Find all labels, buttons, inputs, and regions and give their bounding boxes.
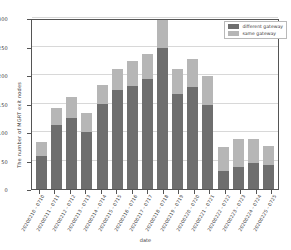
- bar-segment-same-gateway[interactable]: [218, 147, 229, 171]
- y-tick-label: 300: [0, 16, 8, 22]
- legend-swatch: [228, 24, 239, 29]
- legend-label: same gateway: [242, 31, 276, 36]
- bar-segment-different-gateway[interactable]: [202, 105, 213, 189]
- bar-segment-different-gateway[interactable]: [142, 79, 153, 189]
- bar-segment-different-gateway[interactable]: [187, 87, 198, 189]
- y-axis-title: The number of MGRT exit nodes: [16, 65, 22, 185]
- bar-segment-same-gateway[interactable]: [157, 20, 168, 48]
- bar-segment-same-gateway[interactable]: [36, 142, 47, 156]
- bar-group[interactable]: [36, 20, 47, 189]
- bar-segment-different-gateway[interactable]: [81, 132, 92, 189]
- y-tick-label: 250: [0, 45, 8, 51]
- x-axis-title: date: [0, 237, 291, 243]
- y-tick-label: 200: [0, 73, 8, 79]
- x-tick-mark: [101, 190, 102, 194]
- bar-segment-different-gateway[interactable]: [218, 171, 229, 189]
- y-tick-label: 150: [0, 102, 8, 108]
- bar-segment-same-gateway[interactable]: [51, 108, 62, 125]
- bar-group[interactable]: [233, 20, 244, 189]
- bar-segment-same-gateway[interactable]: [142, 54, 153, 79]
- y-tick-label: 0: [0, 187, 8, 193]
- bar-series-container: [32, 20, 278, 189]
- bar-group[interactable]: [112, 20, 123, 189]
- bar-group[interactable]: [218, 20, 229, 189]
- legend-entry: same gateway: [228, 31, 283, 36]
- bar-segment-same-gateway[interactable]: [97, 85, 108, 104]
- bar-segment-same-gateway[interactable]: [248, 139, 259, 164]
- bar-segment-same-gateway[interactable]: [172, 69, 183, 94]
- bar-group[interactable]: [202, 20, 213, 189]
- bar-segment-same-gateway[interactable]: [263, 146, 274, 164]
- chart-figure: The number of MGRT exit nodes 0501001502…: [0, 0, 291, 250]
- y-tick-label: 100: [0, 130, 8, 136]
- y-tick-label: 50: [0, 159, 8, 165]
- bar-segment-same-gateway[interactable]: [127, 61, 138, 87]
- bar-segment-same-gateway[interactable]: [233, 139, 244, 166]
- bar-segment-same-gateway[interactable]: [187, 59, 198, 87]
- x-tick-mark: [225, 190, 226, 194]
- bar-segment-same-gateway[interactable]: [81, 113, 92, 132]
- bar-segment-different-gateway[interactable]: [157, 48, 168, 189]
- y-tick-mark: [27, 190, 31, 191]
- bar-segment-same-gateway[interactable]: [66, 97, 77, 119]
- bar-group[interactable]: [142, 20, 153, 189]
- bar-segment-same-gateway[interactable]: [112, 69, 123, 90]
- bar-segment-different-gateway[interactable]: [66, 118, 77, 189]
- bar-segment-different-gateway[interactable]: [36, 156, 47, 189]
- bar-group[interactable]: [157, 20, 168, 189]
- bar-group[interactable]: [127, 20, 138, 189]
- bar-segment-different-gateway[interactable]: [112, 90, 123, 189]
- bar-segment-different-gateway[interactable]: [97, 104, 108, 190]
- x-tick-mark: [132, 190, 133, 194]
- bar-group[interactable]: [97, 20, 108, 189]
- x-tick-mark: [70, 190, 71, 194]
- bar-group[interactable]: [263, 20, 274, 189]
- bar-group[interactable]: [248, 20, 259, 189]
- legend-swatch: [228, 31, 239, 36]
- legend-label: different gateway: [242, 24, 283, 29]
- x-tick-mark: [163, 190, 164, 194]
- bar-group[interactable]: [66, 20, 77, 189]
- legend-entry: different gateway: [228, 24, 283, 29]
- bar-group[interactable]: [51, 20, 62, 189]
- bar-segment-different-gateway[interactable]: [248, 163, 259, 189]
- gridline: [32, 17, 278, 18]
- bar-segment-same-gateway[interactable]: [202, 76, 213, 105]
- x-tick-mark: [39, 190, 40, 194]
- x-tick-mark: [256, 190, 257, 194]
- bar-group[interactable]: [187, 20, 198, 189]
- bar-segment-different-gateway[interactable]: [263, 165, 274, 190]
- bar-group[interactable]: [81, 20, 92, 189]
- bar-segment-different-gateway[interactable]: [51, 125, 62, 189]
- plot-area: [31, 19, 279, 190]
- bar-segment-different-gateway[interactable]: [172, 94, 183, 189]
- chart-legend: different gatewaysame gateway: [224, 21, 287, 39]
- bar-segment-different-gateway[interactable]: [233, 167, 244, 189]
- x-tick-mark: [194, 190, 195, 194]
- bar-group[interactable]: [172, 20, 183, 189]
- bar-segment-different-gateway[interactable]: [127, 86, 138, 189]
